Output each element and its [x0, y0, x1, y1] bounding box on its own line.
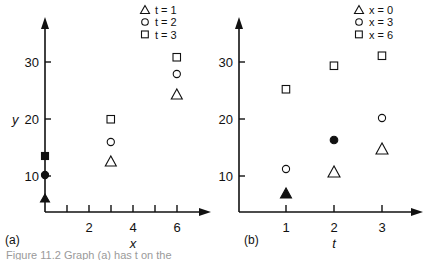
panel-b-y-ticks: [239, 62, 245, 176]
panel-a-xtick-2: 2: [85, 220, 92, 235]
panel-b-xtick-2: 2: [330, 220, 337, 235]
legend-label-1: x = 3: [369, 16, 393, 28]
circle-marker: [282, 165, 289, 172]
square-marker: [142, 31, 149, 38]
chart-panel-a: 30 20 10 y 2 4 6 x: [0, 0, 218, 260]
square-marker: [173, 54, 181, 62]
panel-a-legend: t = 1 t = 2 t = 3: [141, 4, 177, 41]
square-marker: [107, 116, 115, 124]
panel-b-data-t1: [281, 86, 292, 199]
panel-a-data-x6: [171, 54, 182, 100]
square-marker: [42, 153, 49, 160]
square-marker: [378, 52, 386, 60]
panel-b-ytick-30: 30: [219, 55, 233, 70]
circle-marker: [41, 171, 48, 178]
legend-label-2: t = 3: [155, 29, 177, 41]
panel-a-y-axis-title: y: [11, 112, 20, 127]
triangle-marker: [141, 6, 150, 14]
panel-a-ytick-20: 20: [25, 112, 39, 127]
panel-a-xtick-6: 6: [173, 220, 180, 235]
panel-a-y-axis: [41, 17, 49, 212]
circle-marker: [107, 138, 114, 145]
legend-label-0: t = 1: [155, 4, 177, 16]
figure-container: 30 20 10 y 2 4 6 x: [0, 0, 437, 260]
triangle-marker: [41, 194, 50, 202]
triangle-marker: [281, 188, 292, 198]
circle-marker: [330, 136, 338, 144]
legend-item-2: t = 3: [142, 29, 177, 41]
legend-item-0: x = 0: [355, 4, 394, 16]
circle-marker: [356, 19, 363, 26]
panel-b-data-t2: [328, 62, 340, 177]
square-marker: [282, 86, 290, 94]
panel-b-ytick-20: 20: [219, 112, 233, 127]
panel-a-data-x0: [41, 153, 50, 203]
legend-item-1: x = 3: [356, 16, 393, 28]
panel-b-xtick-1: 1: [282, 220, 289, 235]
square-marker: [330, 62, 338, 70]
panel-b-data-t3: [376, 52, 388, 154]
triangle-marker: [355, 6, 364, 14]
panel-b-svg: 30 20 10 y 1 2 3 t: [218, 0, 437, 250]
legend-item-2: x = 6: [356, 29, 394, 41]
circle-marker: [173, 70, 180, 77]
panel-b-label: (b): [244, 233, 259, 247]
panel-a-ytick-30: 30: [25, 55, 39, 70]
panel-b-x-axis: [239, 208, 423, 216]
panel-b-x-ticks: [286, 205, 382, 212]
panel-a-data-x3: [105, 116, 116, 167]
panel-b-ytick-10: 10: [219, 169, 233, 184]
panel-a-x-ticks: [67, 205, 177, 212]
triangle-marker: [328, 166, 340, 177]
panel-a-x-axis: [45, 208, 211, 216]
triangle-marker: [376, 143, 388, 154]
panel-a-xtick-4: 4: [129, 220, 136, 235]
panel-b-x-axis-title: t: [332, 236, 337, 250]
panel-a-ytick-10: 10: [25, 169, 39, 184]
panel-a-x-axis-title: x: [129, 236, 137, 250]
panel-b-xtick-3: 3: [378, 220, 385, 235]
legend-item-0: t = 1: [141, 4, 177, 16]
panel-b-legend: x = 0 x = 3 x = 6: [355, 4, 394, 41]
legend-label-2: x = 6: [369, 29, 393, 41]
square-marker: [356, 31, 363, 38]
circle-marker: [142, 19, 149, 26]
triangle-marker: [171, 89, 182, 99]
panel-a-svg: 30 20 10 y 2 4 6 x: [0, 0, 218, 250]
triangle-marker: [105, 156, 116, 166]
legend-label-1: t = 2: [155, 16, 177, 28]
circle-marker: [378, 114, 385, 121]
legend-item-1: t = 2: [142, 16, 177, 28]
panel-a-label: (a): [5, 233, 20, 247]
panel-b-y-axis: [235, 17, 243, 212]
chart-panel-b: 30 20 10 y 1 2 3 t: [218, 0, 437, 260]
figure-caption: Figure 11.2 Graph (a) has t on the: [6, 250, 431, 260]
legend-label-0: x = 0: [369, 4, 393, 16]
